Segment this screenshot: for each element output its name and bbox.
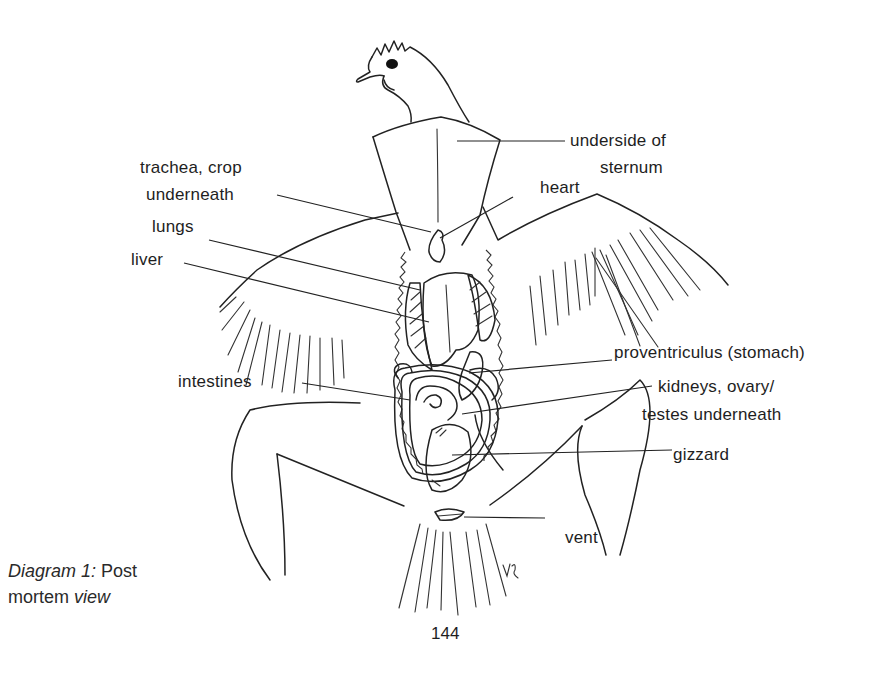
label-proventriculus: proventriculus (stomach): [614, 343, 805, 363]
caption-word-mortem: mortem: [8, 587, 69, 607]
right-wing: [483, 194, 728, 347]
bird-head: [357, 41, 470, 122]
intestines-organ: [394, 364, 499, 482]
tail-feathers: [399, 524, 506, 615]
caption-italic-diagram-number: Diagram 1:: [8, 561, 96, 581]
label-kidneys-line1: kidneys, ovary/: [658, 377, 774, 397]
leader-lines: [184, 141, 672, 518]
diagram-caption: Diagram 1: Post mortem view: [8, 558, 137, 610]
label-heart: heart: [540, 178, 580, 198]
label-vent: vent: [565, 528, 598, 548]
page-number: 144: [431, 624, 459, 644]
label-kidneys-line2: testes underneath: [642, 405, 782, 425]
label-trachea-line1: trachea, crop: [140, 158, 242, 178]
caption-word-post: Post: [101, 561, 137, 581]
heart-organ: [429, 230, 445, 262]
label-liver: liver: [131, 250, 163, 270]
caption-italic-view: view: [74, 587, 110, 607]
sternum: [373, 117, 500, 250]
label-gizzard: gizzard: [673, 445, 729, 465]
legs: [232, 380, 650, 580]
label-underside-of-sternum-line2: sternum: [600, 158, 663, 178]
vent-organ: [435, 509, 464, 520]
label-trachea-line2: underneath: [146, 185, 234, 205]
post-mortem-diagram: underside of sternum trachea, crop under…: [0, 0, 893, 674]
label-underside-of-sternum-line1: underside of: [570, 131, 666, 151]
left-wing: [220, 213, 398, 393]
label-lungs: lungs: [152, 217, 194, 237]
artist-initials-mark: [503, 564, 518, 578]
label-intestines: intestines: [178, 372, 252, 392]
